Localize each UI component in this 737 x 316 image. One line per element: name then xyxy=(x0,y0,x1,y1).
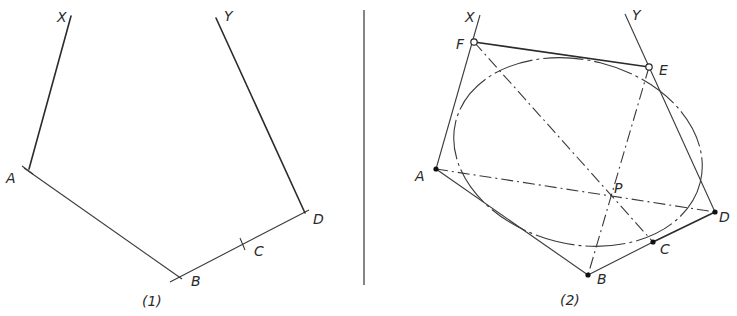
line-x-a xyxy=(29,16,71,169)
line-y-d xyxy=(216,18,305,213)
figure-2: X Y F E A P D C B (2) xyxy=(414,7,730,308)
caption-2: (2) xyxy=(560,292,580,308)
label-b: B xyxy=(191,273,201,289)
point-c xyxy=(650,239,655,244)
line-a-b xyxy=(436,169,588,275)
label-a: A xyxy=(414,168,425,184)
caption-1: (1) xyxy=(142,293,162,309)
label-d: D xyxy=(313,211,324,227)
point-d xyxy=(712,209,717,214)
label-c: C xyxy=(254,243,264,259)
label-e: E xyxy=(659,62,668,78)
point-b xyxy=(585,272,590,277)
line-y-d xyxy=(625,14,715,212)
label-c: C xyxy=(660,241,670,257)
label-d: D xyxy=(719,209,730,225)
label-y: Y xyxy=(632,7,642,23)
diagonal-a-d xyxy=(436,169,715,212)
line-c-d xyxy=(653,212,715,242)
figure-1: X Y A B C D (1) xyxy=(5,8,324,309)
label-x: X xyxy=(56,9,67,25)
line-b-d xyxy=(170,210,309,282)
line-a-b xyxy=(24,168,182,279)
point-a xyxy=(433,166,438,171)
line-f-e xyxy=(474,42,649,67)
diagonal-e-b xyxy=(588,67,649,275)
label-p: P xyxy=(614,180,623,196)
tick-a xyxy=(22,166,33,174)
label-f: F xyxy=(456,36,465,52)
label-a: A xyxy=(5,170,16,186)
point-e xyxy=(646,64,652,70)
point-f xyxy=(471,39,477,45)
label-b: B xyxy=(597,271,607,287)
diagram-canvas: X Y A B C D (1) X Y F E A P xyxy=(0,0,737,316)
inscribed-ellipse xyxy=(433,32,722,271)
label-x: X xyxy=(464,9,475,25)
label-y: Y xyxy=(224,8,234,24)
